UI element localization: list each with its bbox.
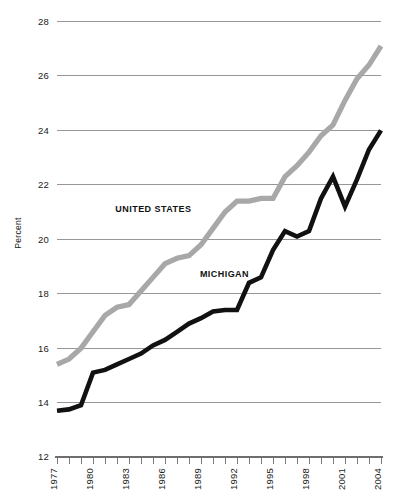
- y-axis-tick-label: 12: [38, 451, 49, 462]
- y-axis-tick-label: 14: [38, 397, 49, 408]
- x-axis-tick-label: 1977: [48, 468, 59, 490]
- y-axis-tick-labels: 121416182022242628: [38, 16, 49, 463]
- series-label-united-states: UNITED STATES: [115, 204, 191, 214]
- series-label-michigan: MICHIGAN: [200, 269, 249, 279]
- x-axis-tick-label: 2001: [336, 468, 347, 490]
- x-axis-tick-label: 1983: [120, 468, 131, 490]
- y-axis-tick-label: 20: [38, 234, 49, 245]
- x-axis-tick-label: 1986: [156, 468, 167, 490]
- x-axis-tick-label: 1992: [228, 468, 239, 490]
- line-chart: 121416182022242628 197719801983198619891…: [0, 0, 403, 501]
- y-axis-tick-label: 16: [38, 343, 49, 354]
- y-axis-title: Percent: [13, 217, 23, 249]
- series-line-united-states: [57, 46, 381, 364]
- x-axis-tick-marks: [57, 457, 381, 464]
- x-axis-tick-labels: 1977198019831986198919921995199820012004: [48, 468, 383, 490]
- chart-canvas: 121416182022242628 197719801983198619891…: [0, 0, 403, 501]
- y-axis-tick-label: 22: [38, 179, 49, 190]
- x-axis-tick-label: 2004: [372, 468, 383, 490]
- data-series-group: [57, 46, 381, 411]
- y-axis-tick-label: 26: [38, 70, 49, 81]
- y-axis-tick-label: 28: [38, 16, 49, 27]
- y-axis-tick-label: 24: [38, 125, 49, 136]
- x-axis-tick-label: 1998: [300, 468, 311, 490]
- x-axis-tick-label: 1980: [84, 468, 95, 490]
- x-axis-tick-label: 1989: [192, 468, 203, 490]
- y-axis-tick-label: 18: [38, 288, 49, 299]
- gridline-group: [57, 22, 381, 403]
- x-axis-tick-label: 1995: [264, 468, 275, 490]
